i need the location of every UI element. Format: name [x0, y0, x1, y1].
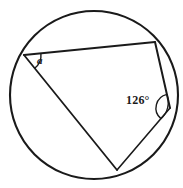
angle-126-label: 126° — [126, 94, 150, 106]
circumscribed-circle — [10, 11, 178, 179]
geometry-figure: a 126° — [0, 0, 183, 188]
geometry-canvas — [0, 0, 183, 188]
angle-a-label: a — [37, 55, 43, 66]
